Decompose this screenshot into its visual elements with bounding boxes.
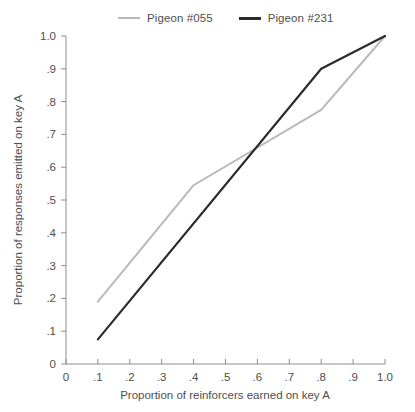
y-tick-label: .3	[46, 260, 56, 272]
x-tick-label: .6	[253, 371, 263, 383]
x-axis-title: Proportion of reinforcers earned on key …	[120, 389, 330, 401]
data-line-pigeon-231	[98, 36, 385, 339]
data-series-group	[98, 36, 385, 339]
y-tick-label: .5	[46, 194, 56, 206]
plot-area: 0.1.2.3.4.5.6.7.8.91.0 0.1.2.3.4.5.6.7.8…	[0, 0, 415, 412]
y-tick-label: .2	[46, 292, 56, 304]
y-tick-label: .4	[46, 227, 56, 239]
y-tick-label: .9	[46, 63, 56, 75]
y-tick-label: .1	[46, 325, 56, 337]
y-tick-label: 0	[50, 358, 56, 370]
x-tick-label: .9	[348, 371, 358, 383]
y-tick-label: .8	[46, 96, 56, 108]
x-tick-label: .8	[316, 371, 326, 383]
y-axis-title: Proportion of responses emitted on key A	[12, 95, 24, 306]
data-line-pigeon-055	[98, 36, 385, 302]
x-tick-label: .3	[157, 371, 167, 383]
y-tick-label: 1.0	[40, 30, 56, 42]
x-tick-label: 1.0	[377, 371, 393, 383]
y-tick-label: .7	[46, 128, 56, 140]
x-tick-label: .7	[285, 371, 295, 383]
x-tick-label: .4	[189, 371, 199, 383]
x-tick-label: .2	[125, 371, 135, 383]
x-tick-label: .1	[93, 371, 103, 383]
x-tick-label: .5	[221, 371, 231, 383]
chart-figure: Pigeon #055 Pigeon #231 0.1.2.3.4.5.6.7.…	[0, 0, 415, 412]
x-axis-ticks: 0.1.2.3.4.5.6.7.8.91.0	[63, 359, 393, 383]
axes	[66, 36, 385, 364]
y-axis-ticks: 0.1.2.3.4.5.6.7.8.91.0	[40, 30, 66, 370]
y-tick-label: .6	[46, 161, 56, 173]
x-tick-label: 0	[63, 371, 69, 383]
